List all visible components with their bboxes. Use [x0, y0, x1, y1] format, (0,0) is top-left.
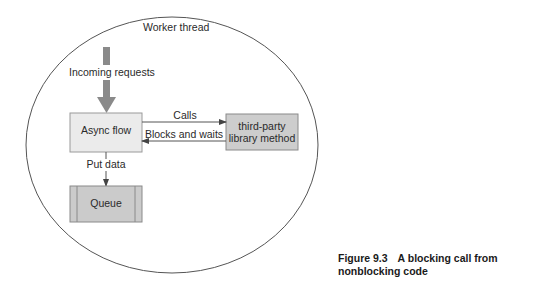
worker-thread-label: Worker thread — [143, 21, 209, 33]
figure-number: Figure 9.3 — [338, 252, 388, 264]
incoming-requests-label: Incoming requests — [69, 66, 155, 78]
third-party-label-line1: third-party — [238, 120, 286, 132]
put-data-label: Put data — [86, 158, 125, 170]
queue-label: Queue — [90, 197, 122, 209]
figure-caption: Figure 9.3A blocking call from nonblocki… — [338, 252, 528, 278]
async-flow-label: Async flow — [81, 124, 132, 136]
calls-label: Calls — [173, 109, 196, 121]
third-party-label-line2: library method — [229, 132, 296, 144]
blocks-and-waits-label: Blocks and waits — [145, 128, 223, 140]
incoming-requests-arrow — [97, 47, 116, 113]
diagram-canvas: Worker thread Incoming requests Async fl… — [0, 0, 537, 287]
